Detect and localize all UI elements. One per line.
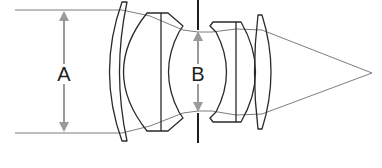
arrow-down-icon [59,122,69,132]
arrow-up-icon [193,31,203,41]
arrow-down-icon [193,102,203,112]
arrow-up-icon [59,11,69,21]
label-b: B [191,63,204,85]
lens-diagram: A B [0,0,382,168]
front-meniscus-lens [110,2,128,141]
dimension-a: A [57,11,71,132]
dimension-b: B [191,31,204,112]
label-a: A [57,63,71,85]
rear-group-outline [210,22,256,122]
front-cemented-group [124,13,184,131]
rear-cemented-group [210,22,256,122]
front-group-outline [124,13,184,131]
